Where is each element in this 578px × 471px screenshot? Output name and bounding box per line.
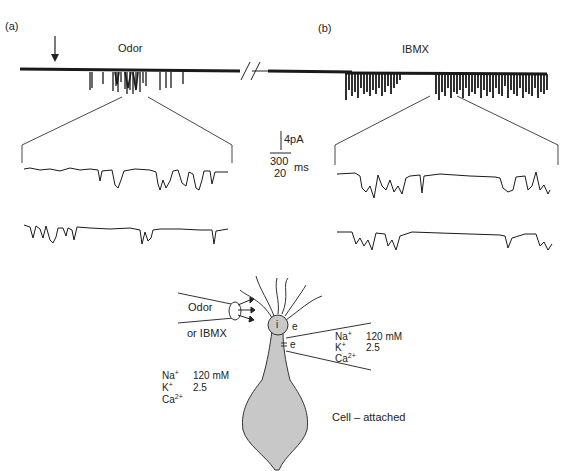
cilia [240,276,322,320]
pipette-label-ibmx: or IBMX [187,328,227,339]
panel-b-label: (b) [318,23,331,34]
recording-mode-label: Cell – attached [332,412,405,423]
bath-na-value: 120 mM [193,371,229,381]
panel-b-stimulus: IBMX [402,44,429,55]
figure-graphics [0,0,578,471]
pipette-k: K+ [335,343,346,353]
electrode-label-2: e [290,340,296,350]
trace-b-expanded-1 [337,172,550,198]
trace-b-expanded-2 [337,232,552,250]
bath-k: K+ [162,383,173,393]
pipette-k-value: 2.5 [366,343,380,353]
scale-time-bottom: 20 [274,168,286,179]
zoom-bracket-a [22,97,232,163]
scale-current-label: 4pA [284,134,304,145]
panel-a-label: (a) [5,21,18,32]
axis-break-icon [241,62,268,80]
scale-time-top: 300 [270,156,288,167]
pipette-ca: Ca2+ [335,354,356,364]
olfactory-neuron [242,315,307,470]
trace-b-overview [268,71,547,100]
zoom-bracket-b [335,96,558,165]
electrode-label-1: e [292,322,298,332]
scale-time-unit: ms [294,162,309,173]
pipette-label-odor: Odor [188,302,212,313]
inside-label: i [276,320,278,330]
panel-a-stimulus: Odor [118,43,142,54]
bath-ca: Ca2+ [162,395,183,405]
stimulus-arrow-icon [51,36,59,62]
bath-k-value: 2.5 [193,383,207,393]
odor-puff-arrows-icon [238,297,255,322]
bath-na: Na+ [162,371,179,381]
trace-a-expanded-2 [24,225,228,244]
trace-a-expanded-1 [24,168,228,190]
trace-a-overview [20,69,240,94]
pipette-na-value: 120 mM [366,332,402,342]
